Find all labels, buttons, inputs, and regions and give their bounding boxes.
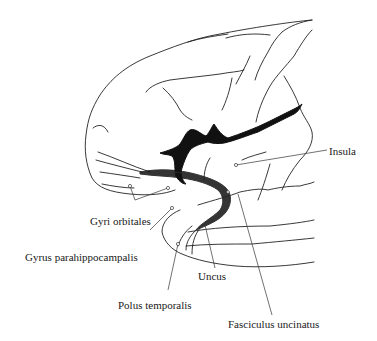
brain-diagram: Insula Gyri orbitales Gyrus parahippocam… — [0, 0, 377, 341]
label-insula: Insula — [329, 145, 356, 157]
label-polus-temporalis: Polus temporalis — [118, 299, 192, 311]
label-gyrus-parahippocampalis: Gyrus parahippocampalis — [25, 251, 138, 263]
brain-drawing — [0, 0, 377, 341]
label-uncus: Uncus — [198, 270, 226, 282]
label-fasciculus-uncinatus: Fasciculus uncinatus — [228, 318, 319, 330]
label-gyri-orbitales: Gyri orbitales — [90, 215, 151, 227]
